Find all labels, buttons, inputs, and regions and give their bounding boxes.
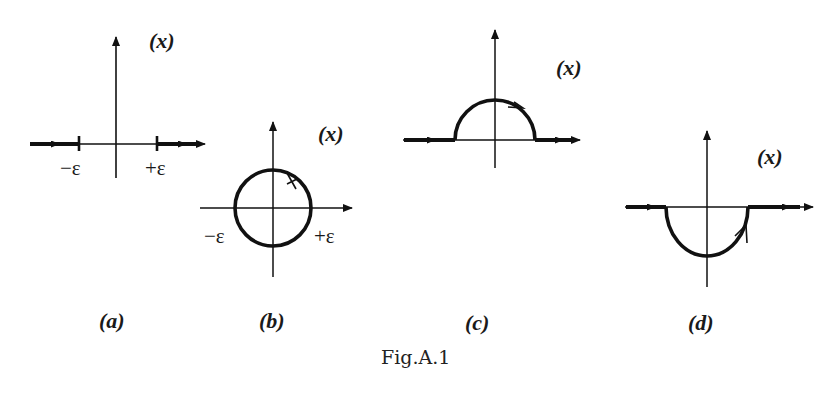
plane-label: (x) [149, 28, 175, 53]
label-plus-eps: +ε [145, 156, 166, 180]
figure-a1: −ε +ε (x) (a) −ε +ε (x) (b) (x) (c) [0, 0, 839, 393]
panel-c: (x) (c) [403, 30, 582, 335]
panel-a: −ε +ε (x) (a) [30, 28, 205, 333]
label-plus-eps: +ε [314, 224, 335, 248]
panel-label-d: (d) [688, 310, 714, 335]
panel-b: −ε +ε (x) (b) [200, 121, 352, 333]
plane-label: (x) [318, 121, 344, 146]
plane-label: (x) [757, 144, 783, 169]
panel-label-a: (a) [99, 308, 125, 333]
label-minus-eps: −ε [204, 224, 225, 248]
panel-label-c: (c) [465, 310, 489, 335]
plane-label: (x) [556, 55, 582, 80]
panel-label-b: (b) [259, 308, 285, 333]
label-minus-eps: −ε [60, 156, 81, 180]
panel-d: (x) (d) [625, 131, 813, 335]
figure-caption: Fig.A.1 [381, 346, 450, 368]
